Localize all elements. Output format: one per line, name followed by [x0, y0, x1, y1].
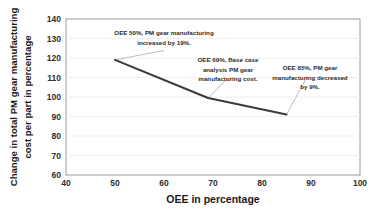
y-tick-label: 120 — [47, 53, 61, 63]
annotation-oee-69: OEE 69%, Base case analysis PM gear manu… — [198, 56, 259, 82]
y-tick-label: 140 — [47, 14, 61, 24]
x-tick-label: 100 — [353, 178, 367, 188]
y-tick-label: 110 — [47, 73, 61, 83]
line-chart: 60 70 80 90 100 110 120 130 140 40 50 60… — [0, 0, 376, 209]
x-tick-label: 70 — [208, 178, 218, 188]
x-axis-ticks: 40 50 60 70 80 90 100 — [61, 178, 367, 188]
x-tick-label: 40 — [61, 178, 71, 188]
annotation-oee-50-line1: OEE 50%, PM gear manufacturing — [114, 29, 214, 36]
annotation-oee-69-line1: OEE 69%, Base case — [198, 56, 259, 63]
annotation-oee-85-line1: OEE 85%, PM gear — [283, 64, 338, 71]
annotation-oee-69-line3: manufacturing cost. — [198, 75, 257, 82]
y-tick-label: 130 — [47, 34, 61, 44]
y-axis-title-line2: cost per part in percentage — [22, 35, 33, 158]
x-tick-label: 90 — [306, 178, 316, 188]
y-tick-label: 60 — [52, 170, 62, 180]
y-axis-ticks: 60 70 80 90 100 110 120 130 140 — [47, 14, 61, 180]
chart-container: 60 70 80 90 100 110 120 130 140 40 50 60… — [0, 0, 376, 209]
annotation-oee-85-line2: manufacturing decreased — [272, 74, 348, 81]
annotation-oee-69-line2: analysis PM gear — [203, 66, 254, 73]
y-tick-label: 70 — [52, 151, 62, 161]
annotation-oee-85-line3: by 9%. — [300, 83, 320, 90]
x-tick-label: 50 — [110, 178, 120, 188]
y-tick-label: 100 — [47, 92, 61, 102]
y-axis-title: Change in total PM gear manufacturing co… — [8, 8, 33, 187]
y-axis-title-line1: Change in total PM gear manufacturing — [8, 8, 19, 187]
annotation-oee-50-line2: increased by 19%. — [137, 39, 191, 46]
x-axis-title: OEE in percentage — [166, 193, 260, 205]
y-tick-label: 90 — [52, 112, 62, 122]
x-tick-label: 60 — [159, 178, 169, 188]
y-tick-label: 80 — [52, 131, 62, 141]
x-tick-label: 80 — [257, 178, 267, 188]
